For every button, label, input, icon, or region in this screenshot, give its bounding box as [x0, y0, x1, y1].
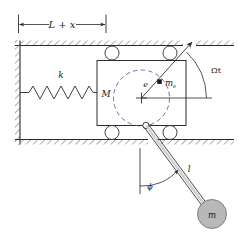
top-wall-hatch-right	[196, 41, 234, 46]
omega-t-arc	[187, 52, 207, 98]
roller-bottom-left	[105, 126, 119, 140]
block-mass-label: M	[100, 89, 111, 99]
eccentricity-label: e	[143, 80, 148, 89]
pendulum-group: ϕ l m	[140, 122, 227, 228]
bottom-wall-hatch-right	[156, 140, 234, 145]
top-wall-hatch-left	[15, 41, 183, 46]
dimension-line-group: L + x	[19, 15, 107, 34]
roller-top-right	[163, 46, 177, 60]
spring-stiffness-label: k	[58, 70, 63, 80]
left-wall-hatch	[15, 41, 20, 145]
pendulum-length-label: l	[188, 164, 191, 174]
eccentric-mass-dot	[157, 79, 162, 84]
bottom-wall-hatch-left	[15, 140, 148, 145]
figure-root: L + x k	[0, 0, 239, 236]
roller-bottom-right	[163, 126, 177, 140]
mechanics-diagram: L + x k	[0, 0, 239, 236]
pendulum-angle-label: ϕ	[147, 182, 153, 191]
pendulum-mass-label: m	[208, 210, 216, 220]
rotation-angle-label: Ωt	[211, 66, 222, 75]
spring-coils	[29, 86, 93, 99]
phi-angle-arc	[140, 170, 178, 186]
pendulum-rod-fill	[146, 126, 205, 206]
roller-top-left	[105, 46, 119, 60]
omega-t-group: Ωt	[187, 52, 222, 98]
dimension-label: L + x	[47, 19, 75, 30]
pendulum-rod-edge-right	[148, 124, 207, 204]
spring-group: k	[20, 70, 97, 99]
